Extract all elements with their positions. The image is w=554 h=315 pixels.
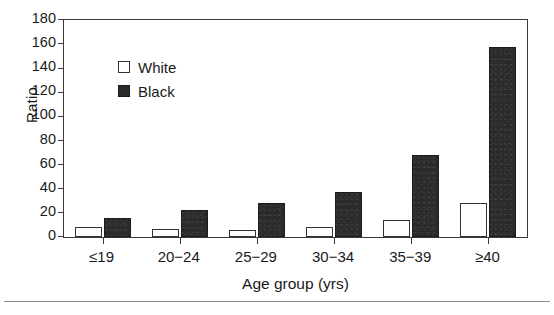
y-axis-tick-label: 0	[12, 228, 56, 242]
y-axis-tick	[58, 236, 64, 237]
bar-black-1	[181, 210, 208, 237]
legend-item-white: White	[118, 55, 238, 79]
x-axis-tick-label: 25−29	[217, 248, 294, 265]
y-axis-tick-label: 160	[12, 35, 56, 49]
y-axis-tick	[58, 43, 64, 44]
plot-area	[63, 19, 528, 238]
y-axis-tick-label: 120	[12, 83, 56, 97]
bar-white-2	[229, 230, 256, 237]
y-axis-tick-label: 40	[12, 180, 56, 194]
x-axis-tick-labels: ≤1920−2425−2930−3435−39≥40	[63, 248, 528, 270]
chart-legend: White Black	[118, 55, 238, 103]
x-axis-tick	[334, 237, 335, 244]
y-axis-tick-label: 20	[12, 204, 56, 218]
y-axis-tick	[58, 140, 64, 141]
x-axis-tick	[488, 237, 489, 244]
y-axis-tick	[58, 164, 64, 165]
bar-black-5	[489, 47, 516, 237]
bar-black-3	[335, 192, 362, 237]
y-axis-tick	[58, 116, 64, 117]
x-axis-tick	[180, 237, 181, 244]
y-axis-tick	[58, 212, 64, 213]
x-axis-tick	[103, 237, 104, 244]
bar-white-1	[152, 229, 179, 237]
x-axis-tick-label: ≤19	[63, 248, 140, 265]
y-axis-tick	[58, 92, 64, 93]
y-axis-tick-label: 80	[12, 132, 56, 146]
x-axis-tick	[257, 237, 258, 244]
bar-series-container	[64, 20, 527, 237]
x-axis-tick-label: 20−24	[140, 248, 217, 265]
legend-label-white: White	[138, 60, 176, 75]
y-axis-tick	[58, 188, 64, 189]
y-axis-tick-label: 60	[12, 156, 56, 170]
bar-black-2	[258, 203, 285, 237]
x-axis-tick-label: ≥40	[449, 248, 526, 265]
legend-label-black: Black	[138, 84, 175, 99]
y-axis-tick-label: 140	[12, 59, 56, 73]
black-square-icon	[118, 85, 130, 97]
y-axis-tick	[58, 68, 64, 69]
bar-black-4	[412, 155, 439, 237]
y-axis-tick-label: 100	[12, 107, 56, 121]
x-axis-tick-label: 30−34	[295, 248, 372, 265]
chart-figure: Ratio 020406080100120140160180 ≤1920−242…	[0, 0, 554, 315]
bar-white-3	[306, 227, 333, 237]
bar-white-4	[383, 220, 410, 237]
y-axis-tick	[58, 19, 64, 20]
bar-white-0	[75, 227, 102, 237]
x-axis-tick-label: 35−39	[372, 248, 449, 265]
bar-white-5	[460, 203, 487, 237]
footer-divider	[4, 301, 550, 302]
white-square-icon	[118, 61, 130, 73]
x-axis-title: Age group (yrs)	[63, 275, 528, 293]
legend-item-black: Black	[118, 79, 238, 103]
y-axis-tick-label: 180	[12, 11, 56, 25]
x-axis-tick	[411, 237, 412, 244]
bar-black-0	[104, 218, 131, 237]
